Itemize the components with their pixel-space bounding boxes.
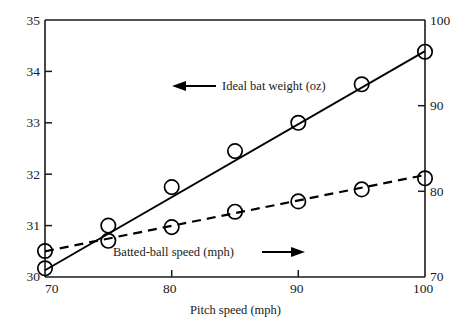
ytick-left-30: 30 [14,269,40,285]
ytick-left-31: 31 [14,218,40,234]
xtick-100: 100 [413,281,433,297]
left-axis-ticks [45,71,52,225]
x-axis-title: Pitch speed (mph) [0,303,471,318]
right-axis-ticks [418,106,425,192]
ytick-right-100: 100 [430,13,450,29]
arrow-right-icon [262,247,305,257]
ytick-left-32: 32 [14,167,40,183]
ytick-left-35: 35 [14,13,40,29]
series-batted-ball-speed [38,171,432,258]
xtick-80: 80 [163,281,177,297]
chart-figure: 35 34 33 32 31 30 100 90 80 70 70 80 90 … [0,0,471,327]
ytick-right-80: 80 [430,184,444,200]
chart-canvas [0,0,471,327]
annotation-ideal-bat-weight: Ideal bat weight (oz) [222,79,326,94]
x-axis-ticks [172,270,299,277]
ytick-left-34: 34 [14,64,40,80]
arrow-left-icon [172,81,216,91]
annotation-batted-ball-speed: Batted-ball speed (mph) [113,245,234,260]
xtick-90: 90 [290,281,304,297]
ytick-right-90: 90 [430,98,444,114]
ytick-left-33: 33 [14,115,40,131]
